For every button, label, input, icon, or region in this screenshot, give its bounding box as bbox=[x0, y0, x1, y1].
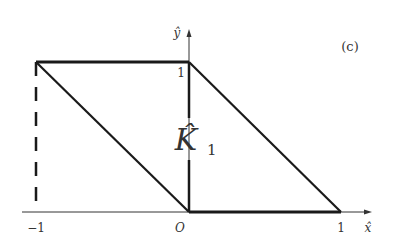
diagram-figure: (c) ŷ x̂ 1 −1 1 O K̂ 1 bbox=[0, 0, 398, 251]
x-tick-neg1: −1 bbox=[27, 221, 45, 235]
x-axis-label: x̂ bbox=[365, 221, 372, 235]
origin-label: O bbox=[175, 221, 185, 235]
x-tick-1: 1 bbox=[337, 221, 345, 235]
y-axis-arrow-icon bbox=[187, 29, 192, 37]
y-axis-label: ŷ bbox=[173, 26, 181, 40]
region-label-subscript: 1 bbox=[207, 141, 217, 159]
panel-label: (c) bbox=[341, 39, 358, 54]
right-diagonal bbox=[189, 62, 341, 212]
left-diagonal bbox=[36, 62, 189, 212]
x-axis-arrow-icon bbox=[364, 210, 372, 215]
y-tick-1: 1 bbox=[177, 66, 185, 80]
region-label-main: K̂ bbox=[174, 122, 199, 157]
